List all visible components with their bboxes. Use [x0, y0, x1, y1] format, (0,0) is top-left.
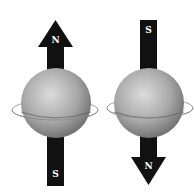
nucleus-sphere — [114, 68, 184, 138]
spin-up-diagram: N S — [12, 20, 98, 186]
pole-label-top: S — [145, 25, 152, 35]
pole-label-bottom: N — [144, 161, 152, 171]
spin-down-diagram: S N — [107, 20, 193, 185]
pole-label-bottom: S — [52, 169, 59, 179]
spin-diagram: N S S N — [0, 0, 194, 194]
pole-label-top: N — [51, 35, 59, 45]
nucleus-sphere — [21, 68, 91, 138]
